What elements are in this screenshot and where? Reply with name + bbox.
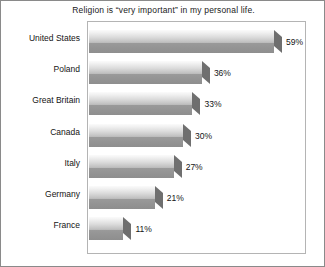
bar-row: France11% [1, 216, 325, 246]
bar-end-cap [202, 61, 210, 84]
bar-top-face [89, 155, 174, 168]
bar-row: Great Britain33% [1, 91, 325, 121]
bar-end-cap [192, 92, 200, 115]
bar-front-face [89, 105, 192, 115]
bar-category-label: Italy [1, 158, 80, 168]
bar-category-label: Poland [1, 64, 80, 74]
bar-end-cap [123, 217, 131, 240]
bar-front-face [89, 43, 274, 53]
bar-end-cap [174, 155, 182, 178]
bar [89, 61, 202, 87]
bar-value-label: 30% [195, 131, 212, 141]
bar-end-cap [183, 124, 191, 147]
bar [89, 30, 274, 56]
bar-front-face [89, 230, 123, 240]
bar-front-face [89, 168, 174, 178]
bar-value-label: 11% [135, 224, 151, 234]
bar-top-face [89, 186, 155, 199]
bar-top-face [89, 61, 202, 74]
bar-top-face [89, 92, 192, 105]
bar-category-label: Great Britain [1, 95, 80, 105]
bar-category-label: France [1, 220, 80, 230]
bar [89, 124, 183, 150]
bar-value-label: 21% [167, 193, 184, 203]
bar-value-label: 33% [204, 99, 221, 109]
bar-top-face [89, 30, 274, 43]
bar-top-face [89, 217, 123, 230]
bar-top-face [89, 124, 183, 137]
bar-row: Poland36% [1, 60, 325, 90]
bar-value-label: 36% [214, 68, 231, 78]
bar-category-label: Canada [1, 127, 80, 137]
bar [89, 217, 123, 243]
bar-category-label: Germany [1, 189, 80, 199]
bar-row: United States59% [1, 29, 325, 59]
bar-front-face [89, 199, 155, 209]
bar [89, 92, 192, 118]
bar [89, 155, 174, 181]
bar-front-face [89, 137, 183, 147]
bar-value-label: 59% [286, 37, 303, 47]
bar-row: Canada30% [1, 123, 325, 153]
bar-row: Germany21% [1, 185, 325, 215]
bar-front-face [89, 74, 202, 84]
bar-category-label: United States [1, 33, 80, 43]
bar [89, 186, 155, 212]
bar-value-label: 27% [186, 162, 203, 172]
bar-row: Italy27% [1, 154, 325, 184]
chart-figure: Religion is “very important” in my perso… [0, 0, 325, 267]
chart-title: Religion is “very important” in my perso… [1, 5, 325, 15]
bar-end-cap [155, 186, 163, 209]
bar-end-cap [274, 30, 282, 53]
